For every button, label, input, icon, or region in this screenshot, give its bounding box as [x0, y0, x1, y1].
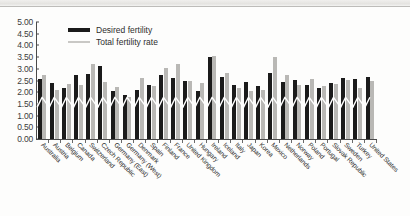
- x-axis-tick-mark: [303, 140, 304, 143]
- chart-figure: 5.004.504.003.503.002.502.001.501.000.50…: [0, 0, 410, 216]
- bar-desired-fertility: [353, 79, 357, 139]
- y-axis-tick-label: 0.00: [17, 134, 33, 144]
- bar-desired-fertility: [123, 95, 127, 139]
- bar-desired-fertility: [98, 66, 102, 139]
- bar-total-fertility-rate: [370, 81, 374, 139]
- bar-total-fertility-rate: [273, 57, 277, 139]
- y-axis-tick-label: 5.00: [17, 17, 33, 27]
- bar-total-fertility-rate: [225, 73, 229, 139]
- bar-total-fertility-rate: [200, 83, 204, 139]
- x-axis-tick-mark: [315, 140, 316, 143]
- x-axis-tick-mark: [60, 140, 61, 143]
- x-axis-tick-mark: [327, 140, 328, 143]
- x-axis-tick-mark: [109, 140, 110, 143]
- bar-total-fertility-rate: [261, 90, 265, 139]
- x-axis-tick-mark: [133, 140, 134, 143]
- chart-legend: Desired fertility Total fertility rate: [68, 24, 228, 48]
- x-axis-tick-mark: [206, 140, 207, 143]
- bar-desired-fertility: [293, 80, 297, 139]
- x-axis-tick-mark: [170, 140, 171, 143]
- legend-label-desired-fertility: Desired fertility: [96, 25, 152, 35]
- bar-desired-fertility: [183, 81, 187, 140]
- bar-total-fertility-rate: [103, 82, 107, 139]
- x-axis-tick-mark: [72, 140, 73, 143]
- y-axis-tick-label: 2.50: [17, 76, 33, 86]
- bar-total-fertility-rate: [249, 91, 253, 139]
- bar-desired-fertility: [38, 79, 42, 139]
- bar-desired-fertility: [171, 78, 175, 139]
- bar-desired-fertility: [268, 73, 272, 139]
- y-axis-tick-label: 4.50: [17, 29, 33, 39]
- x-axis-tick-mark: [340, 140, 341, 143]
- x-axis-tick-mark: [218, 140, 219, 143]
- x-axis-tick-mark: [157, 140, 158, 143]
- x-axis-tick-mark: [267, 140, 268, 143]
- x-axis-tick-mark: [291, 140, 292, 143]
- bar-total-fertility-rate: [334, 84, 338, 139]
- x-axis-label-united-states: United States: [368, 141, 400, 173]
- legend-item-desired-fertility: Desired fertility: [68, 24, 228, 35]
- x-axis-tick-mark: [48, 140, 49, 143]
- legend-item-total-fertility-rate: Total fertility rate: [68, 36, 228, 47]
- bar-total-fertility-rate: [297, 85, 301, 139]
- x-axis-tick-mark: [121, 140, 122, 143]
- bar-desired-fertility: [341, 78, 345, 139]
- bar-total-fertility-rate: [91, 64, 95, 139]
- y-axis-tick-label: 3.00: [17, 64, 33, 74]
- bar-desired-fertility: [366, 77, 370, 139]
- bar-total-fertility-rate: [115, 87, 119, 139]
- legend-label-total-fertility-rate: Total fertility rate: [96, 37, 158, 47]
- bar-desired-fertility: [281, 82, 285, 139]
- y-axis-tick-label: 1.00: [17, 111, 33, 121]
- bar-desired-fertility: [232, 85, 236, 139]
- x-axis-tick-mark: [242, 140, 243, 143]
- scan-artifact-line: [0, 6, 410, 7]
- legend-swatch-desired-fertility: [68, 28, 90, 32]
- bar-total-fertility-rate: [67, 84, 71, 139]
- bar-total-fertility-rate: [164, 68, 168, 139]
- bar-total-fertility-rate: [42, 75, 46, 139]
- bar-total-fertility-rate: [55, 90, 59, 139]
- bar-desired-fertility: [135, 90, 139, 139]
- bar-total-fertility-rate: [176, 64, 180, 139]
- bar-desired-fertility: [305, 85, 309, 139]
- x-axis-tick-mark: [194, 140, 195, 143]
- bar-desired-fertility: [147, 85, 151, 139]
- bar-total-fertility-rate: [140, 78, 144, 139]
- x-axis-tick-mark: [279, 140, 280, 143]
- bar-total-fertility-rate: [237, 88, 241, 139]
- x-axis-tick-mark: [230, 140, 231, 143]
- bar-total-fertility-rate: [358, 88, 362, 139]
- x-axis-tick-mark: [97, 140, 98, 143]
- bar-desired-fertility: [220, 77, 224, 139]
- y-axis-tick-label: 3.50: [17, 52, 33, 62]
- bar-total-fertility-rate: [212, 56, 216, 139]
- y-axis-tick-label: 0.50: [17, 122, 33, 132]
- bar-total-fertility-rate: [285, 75, 289, 139]
- bar-desired-fertility: [50, 83, 54, 139]
- x-axis-tick-mark: [145, 140, 146, 143]
- bar-desired-fertility: [62, 88, 66, 139]
- bar-desired-fertility: [244, 82, 248, 139]
- x-axis-tick-mark: [255, 140, 256, 143]
- bar-total-fertility-rate: [310, 79, 314, 139]
- x-axis-tick-mark: [376, 140, 377, 143]
- bar-total-fertility-rate: [322, 86, 326, 139]
- y-axis-tick-label: 4.00: [17, 40, 33, 50]
- bar-total-fertility-rate: [152, 86, 156, 139]
- bar-total-fertility-rate: [79, 85, 83, 139]
- x-axis-tick-mark: [364, 140, 365, 143]
- bar-desired-fertility: [196, 91, 200, 139]
- bar-desired-fertility: [111, 91, 115, 139]
- bar-desired-fertility: [329, 83, 333, 139]
- x-axis-tick-mark: [85, 140, 86, 143]
- bar-desired-fertility: [159, 75, 163, 139]
- bar-total-fertility-rate: [127, 97, 131, 139]
- y-axis-tick-label: 2.00: [17, 87, 33, 97]
- y-axis-tick-label: 1.50: [17, 99, 33, 109]
- bar-desired-fertility: [256, 86, 260, 139]
- y-axis-tick-labels: 5.004.504.003.503.002.502.001.501.000.50…: [0, 22, 33, 140]
- bar-total-fertility-rate: [346, 80, 350, 139]
- x-axis-category-labels: AustraliaAustriaBelgiumCanadaSwitzerland…: [36, 141, 377, 215]
- bar-total-fertility-rate: [188, 81, 192, 140]
